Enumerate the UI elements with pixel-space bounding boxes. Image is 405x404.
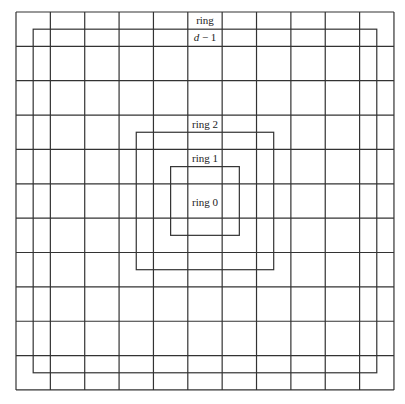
ring-0-label: ring 0 [192,196,218,208]
minus-one: − 1 [199,31,216,43]
ring-d-minus-1-label-line2: d − 1 [194,31,217,43]
ring-2-label: ring 2 [192,118,218,130]
ring-d-minus-1-label-line1: ring [196,14,214,26]
ring-grid-diagram: ring d − 1 ring 2 ring 1 ring 0 [0,0,405,404]
ring-1-label: ring 1 [192,152,218,164]
ring-labels: ring d − 1 ring 2 ring 1 ring 0 [192,14,218,208]
